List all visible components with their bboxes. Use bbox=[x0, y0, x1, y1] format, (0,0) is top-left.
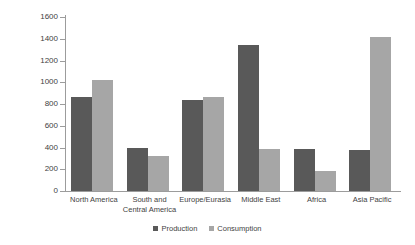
x-axis-labels: North AmericaSouth andCentral AmericaEur… bbox=[66, 195, 400, 223]
bar-group bbox=[344, 17, 400, 191]
y-axis-tick-label: 400 bbox=[6, 144, 58, 152]
bar-production bbox=[294, 149, 315, 191]
legend-label: Production bbox=[161, 224, 197, 233]
bar-group bbox=[122, 17, 178, 191]
y-axis-tick-label: 0 bbox=[6, 187, 58, 195]
bar-consumption bbox=[259, 149, 280, 191]
bar-group bbox=[233, 17, 289, 191]
bar-chart: 16001400120010008006004002000 North Amer… bbox=[0, 0, 415, 245]
y-axis-tick-label: 1000 bbox=[6, 78, 58, 86]
plot-area bbox=[66, 17, 400, 191]
chart-legend: ProductionConsumption bbox=[0, 224, 415, 233]
legend-item[interactable]: Production bbox=[153, 224, 197, 233]
x-axis-line bbox=[65, 191, 401, 192]
y-axis-tick-label: 200 bbox=[6, 165, 58, 173]
y-axis-labels: 16001400120010008006004002000 bbox=[0, 0, 58, 245]
bar-consumption bbox=[203, 97, 224, 191]
bar-group bbox=[66, 17, 122, 191]
legend-item[interactable]: Consumption bbox=[209, 224, 261, 233]
y-axis-tick-label: 1200 bbox=[6, 57, 58, 65]
legend-swatch-icon bbox=[153, 226, 158, 231]
x-axis-category-label-line: Central America bbox=[116, 205, 184, 215]
bar-group bbox=[177, 17, 233, 191]
y-axis-tick-label: 800 bbox=[6, 100, 58, 108]
bar-production bbox=[238, 45, 259, 191]
bar-consumption bbox=[315, 171, 336, 191]
bar-production bbox=[182, 100, 203, 191]
x-axis-category-label: Asia Pacific bbox=[338, 195, 406, 205]
bar-production bbox=[71, 97, 92, 191]
y-axis-tick-label: 600 bbox=[6, 122, 58, 130]
bar-production bbox=[127, 148, 148, 191]
bar-consumption bbox=[148, 156, 169, 191]
x-axis-category-label-line: Asia Pacific bbox=[338, 195, 406, 205]
bar-consumption bbox=[92, 80, 113, 191]
bar-consumption bbox=[370, 37, 391, 191]
legend-swatch-icon bbox=[209, 226, 214, 231]
bar-group bbox=[289, 17, 345, 191]
bar-production bbox=[349, 150, 370, 191]
y-axis-tick-label: 1600 bbox=[6, 13, 58, 21]
y-axis-tick-label: 1400 bbox=[6, 35, 58, 43]
legend-label: Consumption bbox=[217, 224, 261, 233]
